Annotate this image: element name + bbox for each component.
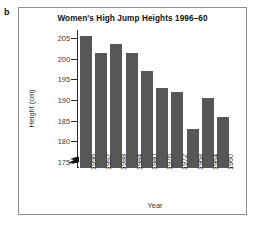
x-tick-label: 1992	[104, 154, 113, 170]
y-tick-label: 185	[24, 116, 70, 125]
y-tick-label: 200	[24, 54, 70, 63]
plot-area	[78, 30, 231, 168]
y-tick-label: 195	[24, 75, 70, 84]
y-tick-label: 180	[24, 137, 70, 146]
y-tick-label: 205	[24, 34, 70, 43]
x-tick-label: 1972	[180, 154, 189, 170]
x-tick-label: 1960	[226, 154, 235, 170]
y-tick-label: 175	[24, 157, 70, 166]
x-axis-title: Year	[77, 201, 233, 210]
x-tick-label: 1988	[119, 154, 128, 170]
x-tick-label: 1980	[150, 154, 159, 170]
bar[interactable]	[109, 44, 123, 168]
panel-label: b	[4, 8, 10, 17]
x-tick-label: 1976	[165, 154, 174, 170]
bar[interactable]	[125, 53, 139, 168]
x-tick-label: 1996	[89, 154, 98, 170]
y-tick-label: 190	[24, 96, 70, 105]
bar[interactable]	[79, 36, 93, 168]
x-tick-label: 1964	[211, 154, 220, 170]
figure-frame: Women's High Jump Heights 1996–60 Height…	[18, 7, 247, 215]
x-tick-label: 1984	[135, 154, 144, 170]
chart-title: Women's High Jump Heights 1996–60	[19, 14, 246, 23]
bar[interactable]	[94, 53, 108, 168]
x-tick-label: 1968	[196, 154, 205, 170]
